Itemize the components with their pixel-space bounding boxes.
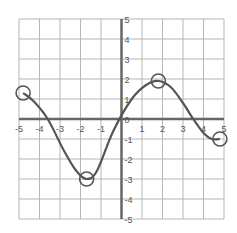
x-tick-label: -1: [97, 124, 105, 134]
x-tick-label: -3: [56, 124, 64, 134]
y-tick-label: 5: [125, 15, 130, 25]
y-tick-label: -2: [125, 155, 133, 165]
x-tick-label: 2: [160, 124, 165, 134]
y-tick-label: -5: [125, 215, 133, 225]
y-tick-label: 0: [125, 115, 130, 125]
y-tick-label: 3: [125, 55, 130, 65]
y-tick-label: 2: [125, 75, 130, 85]
y-tick-label: -1: [125, 135, 133, 145]
function-graph: -5-4-3-2-112345543210-1-2-3-4-5: [0, 0, 237, 233]
x-tick-label: 1: [139, 124, 144, 134]
x-tick-label: -5: [15, 124, 23, 134]
y-tick-label: -3: [125, 175, 133, 185]
y-tick-label: 4: [125, 35, 130, 45]
x-tick-label: -2: [76, 124, 84, 134]
y-tick-label: -4: [125, 195, 133, 205]
x-tick-label: -4: [35, 124, 43, 134]
x-tick-label: 3: [180, 124, 185, 134]
